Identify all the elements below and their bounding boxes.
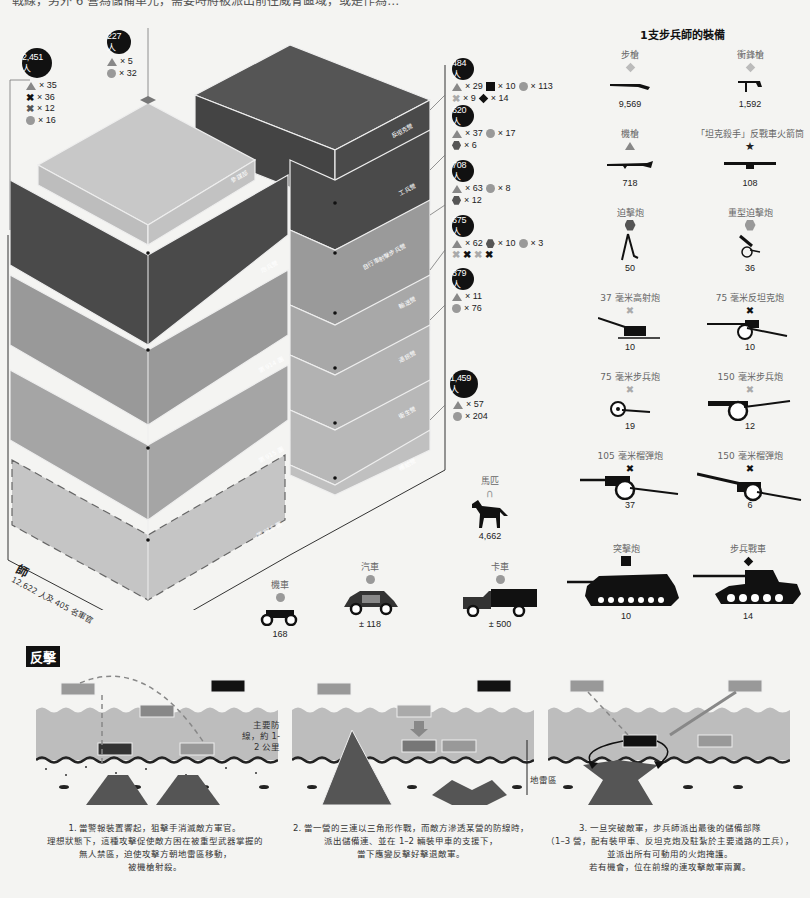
horseshoe-icon: ∩ [460, 487, 520, 499]
tank-destroyer-icon [693, 568, 803, 610]
machine-gun-triangle-icon [452, 293, 462, 301]
machine-gun-triangle-icon [452, 83, 462, 91]
circle-icon [519, 82, 528, 91]
cross-gray-icon: ✖ [626, 306, 634, 315]
equipment-105mm-howitzer: 105 毫米榴彈炮 ✖ 37 [570, 449, 690, 510]
machine-gun-triangle-icon [625, 142, 635, 150]
heavy-mortar-icon [738, 234, 762, 260]
equipment-smg: 衝鋒槍 1,592 [690, 48, 810, 109]
howitzer-105-icon [580, 474, 680, 500]
horse-icon [470, 500, 510, 530]
vehicle-motorcycle: 機車 168 [255, 578, 305, 639]
circle-icon [452, 304, 461, 313]
car-icon [340, 587, 400, 617]
circle-icon [453, 412, 462, 421]
circle-icon [496, 575, 505, 584]
personnel-group-support: 1,459 人 × 57 × 204 [450, 370, 488, 422]
vehicle-tank-destroyer: 步兵戰車 14 [693, 542, 803, 621]
equipment-rifle: 步槍 9,569 [570, 48, 690, 109]
circle-icon [107, 69, 116, 78]
panel-2-diagram [292, 665, 534, 805]
circle-icon [486, 184, 495, 193]
mortar-icon [620, 232, 640, 262]
motorcycle-icon [258, 606, 302, 626]
count-bubble: 708 人 [452, 160, 474, 182]
machine-gun-triangle-icon [452, 130, 462, 138]
diamond-icon [743, 556, 753, 566]
machine-gun-triangle-icon [453, 401, 463, 409]
cross-black-icon: ✖ [626, 464, 634, 473]
main-line-label: 主要防線，約 1-2 公里 [240, 720, 280, 753]
equipment-150mm-inf-gun: 150 毫米步兵炮 ✖ 12 [690, 370, 810, 431]
heavy-infantry-gun-icon [708, 395, 792, 421]
at-gun-icon [707, 318, 793, 340]
personnel-group-bicycle: 708 人 × 63× 8 × 12 [452, 160, 511, 206]
personnel-group-antitank: 484 人 × 29× 10× 113 ✖× 9× 14 [452, 58, 553, 104]
diamond-gray-icon [745, 62, 755, 72]
machine-gun-triangle-icon [452, 240, 462, 248]
equipment-grid: 步槍 9,569 衝鋒槍 1,592 機槍 718 「坦克殺手」反戰車火箭筒 ★… [570, 48, 810, 510]
cross-black-icon: ✖ [485, 250, 493, 259]
count-bubble: 2,451 人 [22, 48, 52, 78]
square-icon [486, 82, 495, 91]
cross-gray-icon: ✖ [626, 385, 634, 394]
equipment-150mm-howitzer: 150 毫米榴彈炮 ✖ 6 [690, 449, 810, 510]
equipment-title: 1支步兵師的裝備 [640, 26, 725, 42]
personnel-group-hq: 2,451 人 × 35 ✖× 36 ✖× 12 × 16 [22, 48, 57, 126]
personnel-group-transport: 675 人 × 62× 10× 3 ✖✖✖✖ [452, 215, 543, 259]
hexagon-dark-icon [625, 220, 636, 231]
equipment-horses: 馬匹 ∩ 4,662 [460, 474, 520, 541]
rocket-launcher-icon [724, 160, 776, 170]
count-bubble: 675 人 [452, 215, 474, 237]
hexagon-icon [452, 196, 461, 205]
diamond-icon [478, 93, 488, 103]
vehicle-assault-gun: 突擊炮 10 [566, 542, 686, 621]
circle-icon [519, 239, 528, 248]
equipment-mg: 機槍 718 [570, 127, 690, 188]
vehicle-car: 汽車 ± 118 [330, 560, 410, 629]
diamond-gray-icon [625, 62, 635, 72]
smg-icon [738, 79, 762, 93]
hexagon-icon [452, 141, 461, 150]
cross-black-icon: ✖ [746, 306, 754, 315]
equipment-75mm-at: 75 毫米反坦克炮 ✖ 10 [690, 291, 810, 352]
panel-3-diagram [548, 665, 790, 805]
infantry-gun-icon [608, 398, 652, 418]
cross-black-icon: ✖ [463, 250, 471, 259]
count-bubble: 484 人 [452, 58, 474, 80]
cross-gray-icon: ✖ [452, 94, 460, 103]
count-bubble: 227 人 [107, 30, 131, 54]
equipment-37mm-aa: 37 毫米高射炮 ✖ 10 [570, 291, 690, 352]
panel-1-caption: 1. 當警報裝置響起，狙擊手消滅敵方軍官。 理想狀態下，這種攻擊促使敵方困在被重… [30, 822, 280, 874]
panel-2-caption: 2. 當一營的三連以三角形作戰，而敵方滲透某營的防線時， 派出儲備連、並在 1–… [286, 822, 536, 861]
machine-gun-triangle-icon [107, 58, 117, 66]
equipment-mortar: 迫擊炮 50 [570, 206, 690, 273]
aa-gun-icon [598, 316, 662, 342]
panel-3-caption: 3. 一旦突破敵軍，步兵師派出最後的儲備部隊 （1–3 營，配有裝甲車、反坦克炮… [540, 822, 800, 874]
circle-icon [276, 593, 285, 602]
cross-gray-icon: ✖ [746, 385, 754, 394]
equipment-panzerschreck: 「坦克殺手」反戰車火箭筒 ★ 108 [690, 127, 810, 188]
hexagon-gray-icon [745, 220, 756, 231]
personnel-group-engineers: 620 人 × 37× 17 × 6 [452, 105, 516, 151]
cross-black-icon: ✖ [26, 93, 34, 102]
truck-icon [463, 587, 537, 617]
cross-gray-icon: ✖ [474, 250, 482, 259]
star-icon: ★ [690, 140, 810, 152]
machine-gun-icon [607, 160, 653, 170]
personnel-group-signals: 379 人 × 11 × 76 [452, 268, 482, 314]
count-bubble: 1,459 人 [450, 370, 478, 398]
howitzer-150-icon [697, 472, 803, 502]
equipment-75mm-inf-gun: 75 毫米步兵炮 ✖ 19 [570, 370, 690, 431]
rifle-icon [610, 81, 650, 91]
assault-gun-icon [567, 568, 685, 610]
machine-gun-triangle-icon [26, 82, 36, 90]
cross-gray-icon: ✖ [452, 250, 460, 259]
personnel-group-staff: 227 人 × 5 × 32 [107, 30, 137, 79]
circle-icon [486, 129, 495, 138]
circle-icon [26, 116, 35, 125]
count-bubble: 620 人 [452, 105, 474, 127]
circle-icon [366, 575, 375, 584]
counterattack-title: 反擊 [26, 646, 60, 667]
square-icon [621, 556, 631, 566]
